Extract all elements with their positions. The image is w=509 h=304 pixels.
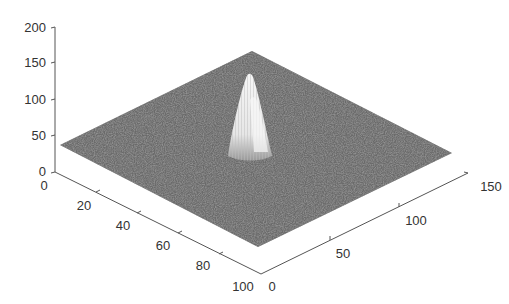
y-tick-label: 150 (480, 179, 502, 194)
x-tick-label: 40 (116, 218, 130, 233)
x-tick-label: 0 (40, 178, 47, 193)
z-tick-label: 150 (24, 55, 46, 70)
x-tick-label: 60 (156, 238, 170, 253)
y-tick-label: 0 (268, 279, 275, 294)
surface-plot: 200 150 100 50 0 0 20 40 60 80 100 0 50 … (0, 0, 509, 304)
y-tick-label: 50 (336, 246, 350, 261)
y-tick-label: 100 (405, 213, 427, 228)
z-tick-label: 100 (24, 92, 46, 107)
x-tick-label: 100 (232, 279, 254, 294)
z-tick-label: 50 (32, 128, 46, 143)
x-tick-label: 20 (77, 198, 91, 213)
z-tick-label: 0 (39, 164, 46, 179)
z-tick-label: 200 (24, 20, 46, 35)
z-tick-labels: 200 150 100 50 0 (24, 20, 46, 179)
x-tick-label: 80 (196, 258, 210, 273)
z-ticks (51, 27, 55, 173)
